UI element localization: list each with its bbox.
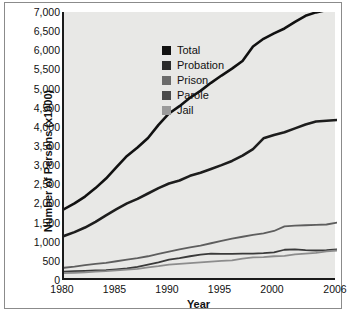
y-tick-label: 500 <box>14 256 60 266</box>
x-tick-label: 2006 <box>310 283 349 295</box>
legend-item-label: Probation <box>177 60 224 71</box>
y-tick-label: 6,000 <box>14 45 60 55</box>
x-tick-label: 1980 <box>37 283 87 295</box>
y-tick-label: 2,500 <box>14 179 60 189</box>
legend-swatch-icon <box>162 76 171 85</box>
legend-item-prison[interactable]: Prison <box>162 74 224 87</box>
x-axis-title: Year <box>62 298 335 310</box>
legend-item-jail[interactable]: Jail <box>162 104 224 117</box>
y-tick-label: 5,000 <box>14 84 60 94</box>
legend-swatch-icon <box>162 46 171 55</box>
x-tick-label: 1995 <box>195 283 245 295</box>
y-tick-label: 6,500 <box>14 26 60 36</box>
y-tick-label: 7,000 <box>14 7 60 17</box>
y-tick-label: 3,000 <box>14 160 60 170</box>
y-axis-ticks: 05001,0001,5002,0002,5003,0003,5004,0004… <box>12 12 60 280</box>
legend-item-label: Jail <box>177 105 194 116</box>
legend-swatch-icon <box>162 61 171 70</box>
x-axis-ticks: 198019851990199520002006 <box>62 283 335 299</box>
x-tick-label: 1990 <box>142 283 192 295</box>
plot-area: TotalProbationPrisonParoleJail <box>62 12 335 280</box>
series-line-prison <box>64 223 337 268</box>
y-tick-label: 4,500 <box>14 103 60 113</box>
legend-item-label: Total <box>177 45 200 56</box>
y-tick-label: 4,000 <box>14 122 60 132</box>
y-tick-label: 1,500 <box>14 218 60 228</box>
x-tick-label: 2000 <box>247 283 297 295</box>
legend-item-label: Prison <box>177 75 208 86</box>
y-tick-label: 1,000 <box>14 237 60 247</box>
legend-item-total[interactable]: Total <box>162 44 224 57</box>
y-tick-label: 3,500 <box>14 141 60 151</box>
legend-item-probation[interactable]: Probation <box>162 59 224 72</box>
chart-figure: Number of Persons (x1000) 05001,0001,500… <box>0 0 349 330</box>
legend-swatch-icon <box>162 106 171 115</box>
figure-frame: Number of Persons (x1000) 05001,0001,500… <box>4 2 342 309</box>
chart-legend: TotalProbationPrisonParoleJail <box>162 44 224 117</box>
x-tick-label: 1985 <box>90 283 140 295</box>
legend-swatch-icon <box>162 91 171 100</box>
y-tick-label: 2,000 <box>14 198 60 208</box>
series-line-parole <box>64 249 337 271</box>
y-tick-label: 5,500 <box>14 64 60 74</box>
legend-item-label: Parole <box>177 90 209 101</box>
legend-item-parole[interactable]: Parole <box>162 89 224 102</box>
